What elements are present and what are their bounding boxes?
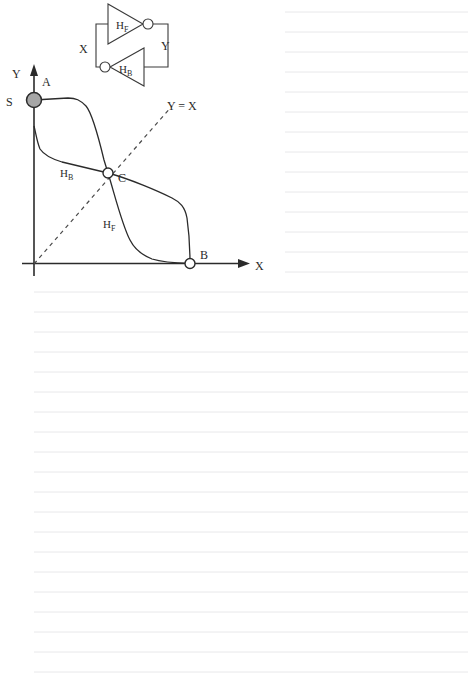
x-axis-label: X <box>255 259 264 273</box>
point-c-marker <box>103 168 113 178</box>
forward-transfer-curve <box>34 98 190 264</box>
curve-label-hb: HB <box>60 167 73 182</box>
transfer-characteristic-figure: X Y HF HB Y X S Y = X <box>0 0 470 686</box>
backward-inverter-bubble <box>100 62 110 72</box>
y-axis-label: Y <box>12 67 21 81</box>
figure-container: X Y HF HB Y X S Y = X <box>0 0 470 686</box>
backward-inverter-triangle <box>110 48 144 86</box>
point-c-label: C <box>118 171 126 185</box>
point-a-label: A <box>42 75 51 89</box>
origin-label-s: S <box>6 95 13 109</box>
x-axis-arrowhead <box>238 259 250 268</box>
notebook-page: X Y HF HB Y X S Y = X <box>0 0 470 686</box>
circuit-label-hf: HF <box>116 19 129 34</box>
point-b-label: B <box>200 248 208 262</box>
backward-transfer-curve <box>34 126 190 264</box>
point-b-marker <box>185 259 195 269</box>
forward-inverter-bubble <box>143 19 153 29</box>
diagonal-y-equals-x-line <box>34 106 172 264</box>
circuit-label-y: Y <box>161 39 170 53</box>
y-axis-arrowhead <box>30 64 38 76</box>
diagonal-label: Y = X <box>167 99 197 113</box>
forward-inverter-triangle <box>108 4 143 44</box>
circuit-label-x: X <box>79 42 88 56</box>
point-a-marker <box>27 93 42 108</box>
plot-axes <box>22 71 242 276</box>
curve-label-hf: HF <box>103 218 116 233</box>
wire-input-x <box>96 24 108 67</box>
